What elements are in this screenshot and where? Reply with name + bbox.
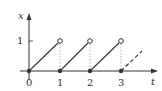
segment-1 [29, 43, 58, 71]
tick-2-label: 2 [87, 77, 93, 88]
tick-0-label: 0 [26, 77, 32, 88]
segment-2 [60, 43, 88, 71]
segment-3 [90, 43, 119, 71]
closed-dot-1 [58, 69, 62, 73]
tick-3-label: 3 [118, 77, 124, 88]
open-dot-1 [58, 39, 63, 44]
closed-dot-3 [119, 69, 123, 73]
closed-dot-2 [88, 69, 92, 73]
segment-4-dashed [121, 51, 142, 71]
closed-dot-0 [27, 69, 31, 73]
t-axis-label: t [151, 76, 156, 87]
tick-1-label: 1 [57, 77, 63, 88]
x-axis-arrow-icon [27, 13, 32, 20]
ytick-1-label: 1 [17, 35, 23, 46]
sawtooth-diagram: x t 1 0 1 2 3 [0, 0, 162, 91]
open-dot-3 [119, 39, 124, 44]
t-axis-arrow-icon [151, 69, 158, 74]
x-axis-label: x [18, 10, 24, 21]
open-dot-2 [88, 39, 93, 44]
